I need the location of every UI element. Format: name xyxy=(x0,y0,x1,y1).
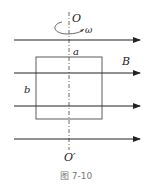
label-omega: ω xyxy=(85,25,93,35)
coil-in-magnetic-field-diagram: O ω a B b O′ 图 7-10 xyxy=(0,0,156,191)
figure-caption: 图 7-10 xyxy=(60,171,93,181)
label-field-b: B xyxy=(121,55,130,68)
label-side-b: b xyxy=(24,84,30,95)
label-axis-bottom: O′ xyxy=(64,151,76,164)
label-axis-top: O xyxy=(72,12,81,25)
label-side-a: a xyxy=(73,46,79,57)
